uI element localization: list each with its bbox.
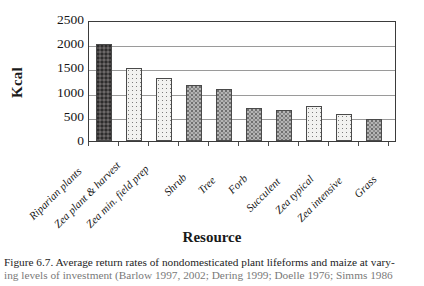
bar-forb bbox=[246, 108, 262, 141]
bars-layer bbox=[89, 22, 395, 141]
x-label-forb: Forb bbox=[226, 172, 250, 196]
bar-shrub bbox=[186, 85, 202, 141]
bar-zea-typical bbox=[306, 106, 322, 141]
y-axis-tick-labels: 2500 2000 1500 1000 500 0 bbox=[30, 13, 84, 149]
bar-riparian-plants bbox=[96, 44, 112, 141]
figure-caption: Figure 6.7. Average return rates of nond… bbox=[4, 256, 422, 281]
plot-area bbox=[88, 21, 396, 142]
x-axis-title: Resource bbox=[0, 229, 424, 246]
y-tick-label: 2500 bbox=[30, 13, 84, 27]
x-axis-category-labels: Riparian plants Zea plant & harvest Zea … bbox=[0, 146, 424, 222]
x-label-shrub: Shrub bbox=[162, 171, 189, 198]
y-tick-label: 1000 bbox=[30, 86, 84, 100]
bar-grass bbox=[366, 119, 382, 141]
bar-zea-min-field-prep bbox=[156, 78, 172, 141]
y-tick-label: 2000 bbox=[30, 37, 84, 51]
bar-tree bbox=[216, 89, 232, 141]
figure-caption-line-1: Figure 6.7. Average return rates of nond… bbox=[4, 256, 422, 269]
y-tick-label: 500 bbox=[30, 110, 84, 124]
bar-succulent bbox=[276, 110, 292, 141]
figure-6-7: Kcal 2500 2000 1500 1000 500 0 bbox=[0, 0, 424, 286]
x-label-grass: Grass bbox=[352, 173, 379, 200]
y-axis-title: Kcal bbox=[2, 44, 32, 120]
bar-zea-plant-harvest bbox=[126, 68, 142, 141]
y-axis-title-text: Kcal bbox=[9, 67, 26, 98]
y-tick-label: 1500 bbox=[30, 61, 84, 75]
figure-caption-line-2: ing levels of investment (Barlow 1997, 2… bbox=[4, 269, 422, 282]
bar-zea-intensive bbox=[336, 114, 352, 141]
x-label-tree: Tree bbox=[196, 174, 218, 196]
